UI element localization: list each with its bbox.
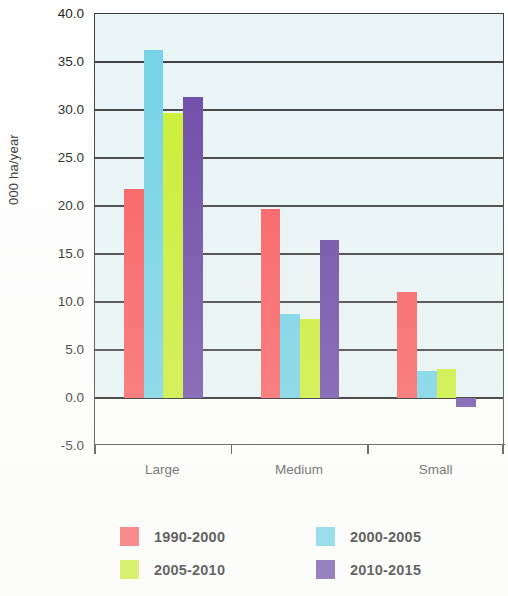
y-axis-tick-label: 30.0 <box>22 102 84 117</box>
x-axis-tick <box>231 445 233 454</box>
x-axis-tick-label: Medium <box>275 462 323 477</box>
x-axis-tick-label: Small <box>419 462 453 477</box>
y-axis-tick-label: 10.0 <box>22 294 84 309</box>
plot-area <box>94 13 504 445</box>
legend-label: 2005-2010 <box>154 562 225 578</box>
bar <box>320 240 340 398</box>
legend-label: 2000-2005 <box>350 529 421 545</box>
legend-item[interactable]: 1990-2000 <box>120 527 225 546</box>
x-axis-tick <box>502 445 504 454</box>
x-axis-tick-label: Large <box>145 462 180 477</box>
x-axis-tick-labels: LargeMediumSmall <box>94 462 504 484</box>
legend-color-swatch <box>316 560 335 579</box>
x-axis-tick <box>367 445 369 454</box>
bar <box>183 97 203 398</box>
bar <box>456 398 476 407</box>
y-axis-tick-label: 25.0 <box>22 150 84 165</box>
legend-item[interactable]: 2000-2005 <box>316 527 421 546</box>
bar <box>300 319 320 398</box>
chart-legend: 1990-20002000-20052005-20102010-2015 <box>120 527 490 589</box>
bar <box>280 314 300 398</box>
bar <box>437 369 457 398</box>
legend-item[interactable]: 2010-2015 <box>316 560 421 579</box>
y-axis-tick-label: 35.0 <box>22 54 84 69</box>
below-zero-background <box>95 398 503 445</box>
bar <box>144 50 164 398</box>
bar <box>124 189 144 398</box>
legend-color-swatch <box>120 560 139 579</box>
bar <box>163 113 183 398</box>
y-axis-tick-label: 0.0 <box>22 390 84 405</box>
x-axis-tick <box>94 445 96 454</box>
y-axis-tick-label: 15.0 <box>22 246 84 261</box>
bar-chart-figure: 000 ha/year 40.035.030.025.020.015.010.0… <box>0 0 508 596</box>
bar <box>417 371 437 398</box>
bar <box>261 209 281 398</box>
legend-item[interactable]: 2005-2010 <box>120 560 225 579</box>
y-axis-tick-label: -5.0 <box>22 438 84 453</box>
legend-color-swatch <box>120 527 139 546</box>
y-axis-tick-label: 20.0 <box>22 198 84 213</box>
y-axis-tick-label: 40.0 <box>22 6 84 21</box>
legend-label: 1990-2000 <box>154 529 225 545</box>
legend-label: 2010-2015 <box>350 562 421 578</box>
x-axis-ticks <box>94 445 504 455</box>
y-axis-tick-labels: 40.035.030.025.020.015.010.05.00.0-5.0 <box>22 0 84 460</box>
y-axis-tick-label: 5.0 <box>22 342 84 357</box>
bar <box>397 292 417 398</box>
legend-color-swatch <box>316 527 335 546</box>
